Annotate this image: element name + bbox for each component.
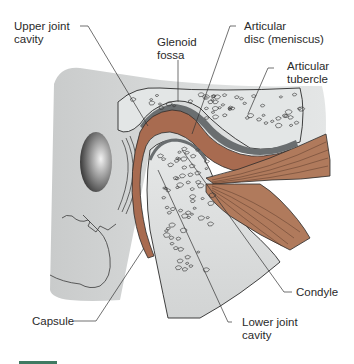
label-line: Capsule [32, 315, 74, 328]
label-lower-joint-cavity: Lower joint cavity [242, 316, 298, 342]
label-condyle: Condyle [296, 286, 338, 299]
label-articular-tubercle: Articular tubercle [287, 60, 329, 86]
label-line: Articular [287, 60, 329, 73]
label-articular-disc: Articular disc (meniscus) [244, 20, 324, 46]
label-line: Upper joint [14, 20, 70, 33]
label-glenoid-fossa: Glenoid fossa [157, 36, 197, 62]
label-line: fossa [157, 49, 197, 62]
label-line: Articular [244, 20, 324, 33]
label-line: cavity [14, 33, 70, 46]
label-line: disc (meniscus) [244, 33, 324, 46]
label-line: cavity [242, 329, 298, 342]
label-line: Lower joint [242, 316, 298, 329]
label-line: Condyle [296, 286, 338, 299]
auditory-canal [80, 132, 112, 192]
label-capsule: Capsule [32, 315, 74, 328]
label-line: Glenoid [157, 36, 197, 49]
label-upper-joint-cavity: Upper joint cavity [14, 20, 70, 46]
label-line: tubercle [287, 73, 329, 86]
